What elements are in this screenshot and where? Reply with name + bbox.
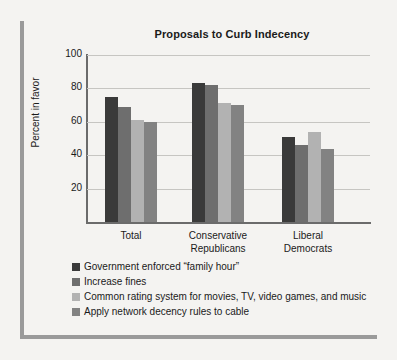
chart-title: Proposals to Curb Indecency xyxy=(87,28,377,40)
y-tick: 100 xyxy=(48,55,82,56)
y-tick-label: 20 xyxy=(50,182,82,193)
x-axis-category-label: LiberalDemocrats xyxy=(253,229,363,255)
y-tick: 80 xyxy=(48,88,82,89)
bar xyxy=(144,122,157,222)
bar xyxy=(192,83,205,222)
y-tick: 20 xyxy=(48,189,82,190)
y-tick-label: 60 xyxy=(50,115,82,126)
gridline xyxy=(87,88,370,89)
bar xyxy=(231,105,244,222)
bar xyxy=(282,137,295,222)
bar xyxy=(218,103,231,222)
x-axis-line xyxy=(86,222,371,224)
decorative-bottom-rule xyxy=(20,335,377,339)
legend-item: Government enforced “family hour” xyxy=(72,261,366,274)
legend-swatch-icon xyxy=(72,308,80,316)
bar xyxy=(295,145,308,222)
legend-swatch-icon xyxy=(72,278,80,286)
legend-item: Common rating system for movies, TV, vid… xyxy=(72,291,366,304)
chart-legend: Government enforced “family hour”Increas… xyxy=(72,261,366,321)
legend-item: Increase fines xyxy=(72,276,366,289)
legend-swatch-icon xyxy=(72,263,80,271)
gridline xyxy=(87,55,370,56)
legend-label: Common rating system for movies, TV, vid… xyxy=(84,291,366,303)
category-label-line: Liberal xyxy=(253,229,363,242)
bar xyxy=(205,85,218,222)
y-tick: 40 xyxy=(48,155,82,156)
legend-item: Apply network decency rules to cable xyxy=(72,306,366,319)
chart-figure: Proposals to Curb Indecency Percent in f… xyxy=(0,0,397,360)
category-label-line: Democrats xyxy=(253,242,363,255)
y-axis-title: Percent in favor xyxy=(30,58,41,168)
bar xyxy=(321,149,334,222)
bar xyxy=(131,120,144,222)
legend-swatch-icon xyxy=(72,293,80,301)
y-tick-label: 100 xyxy=(50,48,82,59)
bar xyxy=(118,107,131,222)
y-tick-label: 80 xyxy=(50,81,82,92)
y-tick: 60 xyxy=(48,122,82,123)
bar xyxy=(308,132,321,222)
y-tick-label: 40 xyxy=(50,148,82,159)
legend-label: Increase fines xyxy=(84,276,146,288)
legend-label: Apply network decency rules to cable xyxy=(84,306,249,318)
decorative-left-rule xyxy=(20,21,24,339)
plot-area xyxy=(87,55,370,222)
legend-label: Government enforced “family hour” xyxy=(84,261,239,273)
bar xyxy=(105,97,118,222)
